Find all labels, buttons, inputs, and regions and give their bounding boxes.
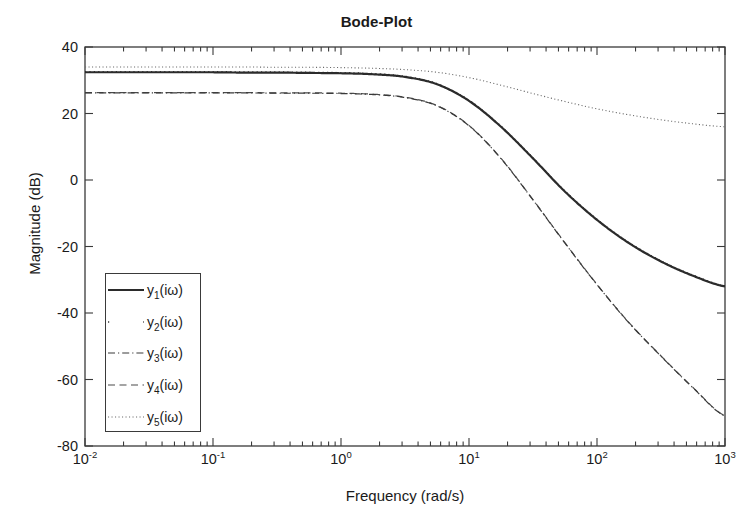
legend-line-sample-5 bbox=[106, 407, 146, 427]
series-line-1 bbox=[85, 72, 725, 286]
legend-label-tail: (iω) bbox=[160, 345, 183, 361]
legend-item-5[interactable]: y5(iω) bbox=[106, 401, 202, 433]
legend-label-1: y1(iω) bbox=[146, 283, 183, 297]
legend-label-tail: (iω) bbox=[160, 314, 183, 330]
legend-label-4: y4(iω) bbox=[146, 378, 183, 392]
bode-plot-figure: Bode-Plot Magnitude (dB) Frequency (rad/… bbox=[0, 0, 753, 524]
legend-label-3: y3(iω) bbox=[146, 346, 183, 360]
legend-item-3[interactable]: y3(iω) bbox=[106, 338, 202, 370]
series-line-2 bbox=[85, 72, 725, 286]
legend-label-base: y bbox=[147, 282, 154, 298]
legend-label-base: y bbox=[147, 377, 154, 393]
legend: y1(iω)y2(iω)y3(iω)y4(iω)y5(iω) bbox=[105, 273, 201, 432]
legend-item-2[interactable]: y2(iω) bbox=[106, 306, 202, 338]
legend-label-base: y bbox=[147, 409, 154, 425]
legend-line-sample-2 bbox=[106, 312, 146, 332]
plot-canvas bbox=[0, 0, 753, 524]
legend-line-sample-1 bbox=[106, 280, 146, 300]
legend-label-base: y bbox=[147, 345, 154, 361]
legend-label-tail: (iω) bbox=[160, 409, 183, 425]
legend-item-1[interactable]: y1(iω) bbox=[106, 274, 202, 306]
legend-line-sample-4 bbox=[106, 375, 146, 395]
legend-label-tail: (iω) bbox=[160, 282, 183, 298]
legend-label-2: y2(iω) bbox=[146, 315, 183, 329]
legend-line-sample-3 bbox=[106, 343, 146, 363]
legend-item-4[interactable]: y4(iω) bbox=[106, 369, 202, 401]
legend-label-base: y bbox=[147, 314, 154, 330]
legend-label-5: y5(iω) bbox=[146, 410, 183, 424]
legend-label-tail: (iω) bbox=[160, 377, 183, 393]
